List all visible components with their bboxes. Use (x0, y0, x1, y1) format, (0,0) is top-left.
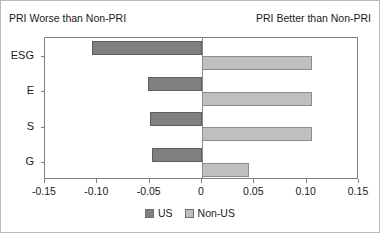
x-axis: -0.15-0.10-0.0500.050.100.15 (44, 179, 358, 205)
bar-non-us-esg (202, 56, 312, 70)
bar-us-esg (92, 41, 202, 55)
x-axis-tick (201, 179, 202, 183)
y-axis-label-s: S (27, 120, 34, 132)
legend-swatch-icon (145, 209, 154, 218)
x-axis-tick-label: -0.10 (84, 185, 108, 197)
y-axis-label-e: E (27, 84, 34, 96)
y-axis-tick (41, 56, 45, 57)
bar-non-us-e (202, 92, 312, 106)
y-axis-tick (41, 127, 45, 128)
x-axis-tick (253, 179, 254, 183)
x-axis-tick-label: 0.15 (348, 185, 368, 197)
bar-us-s (150, 112, 202, 126)
y-axis-labels: ESGESG (1, 37, 39, 179)
bar-non-us-g (202, 163, 249, 177)
bar-row (45, 109, 357, 145)
bar-row (45, 145, 357, 181)
y-axis-tick (41, 91, 45, 92)
legend-item-non-us[interactable]: Non-US (185, 207, 235, 219)
x-axis-tick-label: 0.10 (295, 185, 315, 197)
legend-label: Non-US (198, 207, 235, 219)
y-axis-tick (41, 162, 45, 163)
x-axis-tick (96, 179, 97, 183)
x-axis-tick-label: 0 (198, 185, 204, 197)
legend-swatch-icon (185, 209, 194, 218)
annotation-worse-label: PRI Worse than Non-PRI (9, 12, 126, 24)
y-axis-label-esg: ESG (11, 49, 34, 61)
plot-area (44, 37, 358, 179)
x-axis-tick-label: -0.15 (32, 185, 56, 197)
bar-row (45, 38, 357, 74)
bar-us-g (152, 148, 202, 162)
bar-us-e (148, 77, 202, 91)
y-axis-label-g: G (25, 155, 34, 167)
chart-legend: USNon-US (1, 207, 379, 219)
bar-row (45, 74, 357, 110)
annotation-better-label: PRI Better than Non-PRI (256, 12, 371, 24)
x-axis-tick-label: -0.05 (137, 185, 161, 197)
legend-item-us[interactable]: US (145, 207, 173, 219)
legend-label: US (158, 207, 173, 219)
chart-figure: PRI Worse than Non-PRI PRI Better than N… (0, 0, 380, 233)
bar-non-us-s (202, 127, 312, 141)
x-axis-tick (149, 179, 150, 183)
x-axis-tick (44, 179, 45, 183)
x-axis-tick (306, 179, 307, 183)
x-axis-tick (358, 179, 359, 183)
x-axis-tick-label: 0.05 (243, 185, 263, 197)
